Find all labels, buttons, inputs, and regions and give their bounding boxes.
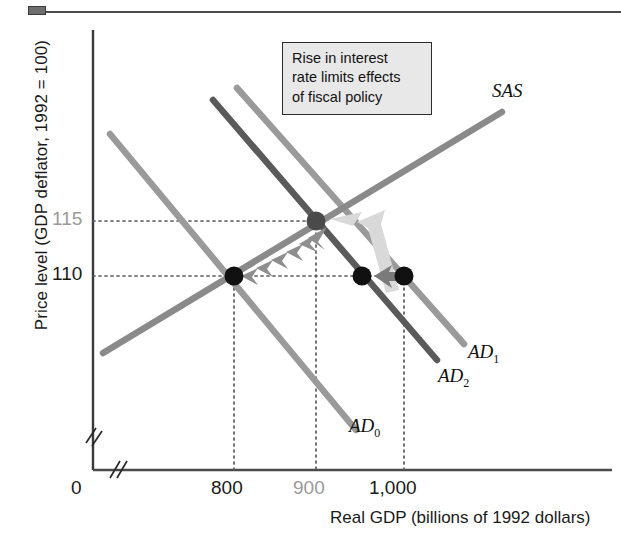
curve-label-sas: SAS bbox=[492, 80, 523, 102]
movement-arrow-chevrons bbox=[241, 227, 327, 285]
curve-label-ad0: AD0 bbox=[349, 415, 380, 441]
annotation-line-2: rate limits effects bbox=[292, 68, 423, 87]
curve-label-ad2: AD2 bbox=[438, 365, 469, 391]
curve-label-ad2-text: AD bbox=[438, 365, 463, 386]
x-tick-1000: 1,000 bbox=[369, 477, 417, 499]
annotation-box: Rise in interest rate limits effects of … bbox=[282, 42, 432, 115]
x-tick-origin: 0 bbox=[71, 477, 82, 499]
y-axis-title: Price level (GDP deflator, 1992 = 100) bbox=[32, 25, 52, 345]
curve-label-ad2-sub: 2 bbox=[463, 376, 469, 390]
y-tick-115: 115 bbox=[52, 208, 82, 230]
curve-label-ad0-sub: 0 bbox=[374, 426, 380, 440]
curve-label-ad1-sub: 1 bbox=[493, 352, 499, 366]
curve-label-ad1: AD1 bbox=[468, 341, 499, 367]
x-tick-900: 900 bbox=[293, 477, 325, 499]
marker-initial-equilibrium bbox=[225, 267, 244, 286]
annotation-line-3: of fiscal policy bbox=[292, 88, 423, 107]
marker-ad1-at-110 bbox=[395, 267, 414, 286]
annotation-line-1: Rise in interest bbox=[292, 49, 423, 68]
curve-label-ad0-text: AD bbox=[349, 415, 374, 436]
x-axis-title: Real GDP (billions of 1992 dollars) bbox=[330, 508, 590, 528]
figure-container: Price level (GDP deflator, 1992 = 100) R… bbox=[0, 0, 621, 542]
x-tick-800: 800 bbox=[211, 477, 243, 499]
y-tick-110: 110 bbox=[52, 263, 82, 285]
curve-label-ad1-text: AD bbox=[468, 341, 493, 362]
marker-new-equilibrium bbox=[307, 212, 326, 231]
marker-ad2-at-110 bbox=[353, 267, 372, 286]
